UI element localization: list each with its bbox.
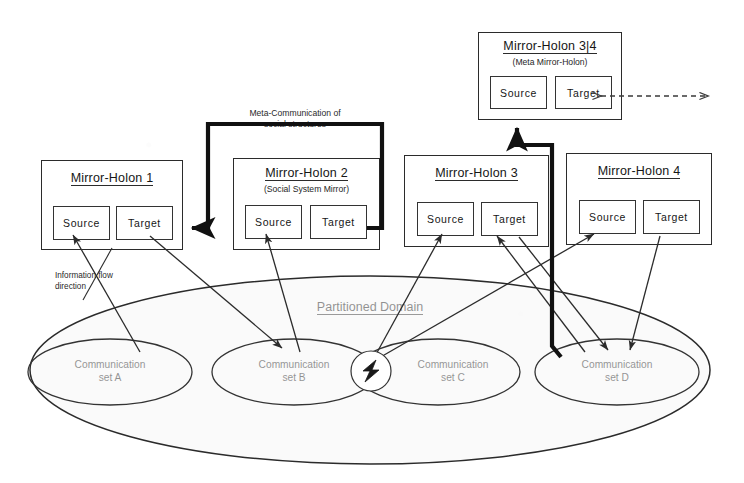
meta-aggregation-path-setd-to-holon34-source <box>517 128 561 357</box>
meta-communication-layer <box>0 0 744 483</box>
diagram-canvas: Mirror-Holon 3|4 (Meta Mirror-Holon) Sou… <box>0 0 744 483</box>
meta-communication-path-holon2-to-holon1 <box>192 124 382 228</box>
